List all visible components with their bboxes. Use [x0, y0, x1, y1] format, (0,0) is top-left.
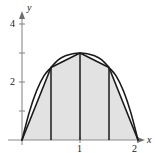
y-tick-label-4: 4 — [10, 18, 15, 29]
figure-container: 4 2 1 2 y x — [0, 0, 155, 153]
y-tick-label-2: 2 — [10, 76, 15, 87]
y-axis-label: y — [26, 2, 32, 13]
y-axis-arrow — [19, 11, 25, 19]
x-axis-label: x — [146, 134, 152, 145]
trapezoidal-rule-chart: 4 2 1 2 y x — [0, 0, 155, 153]
x-tick-label-1: 1 — [77, 143, 82, 153]
x-tick-label-2: 2 — [132, 143, 137, 153]
